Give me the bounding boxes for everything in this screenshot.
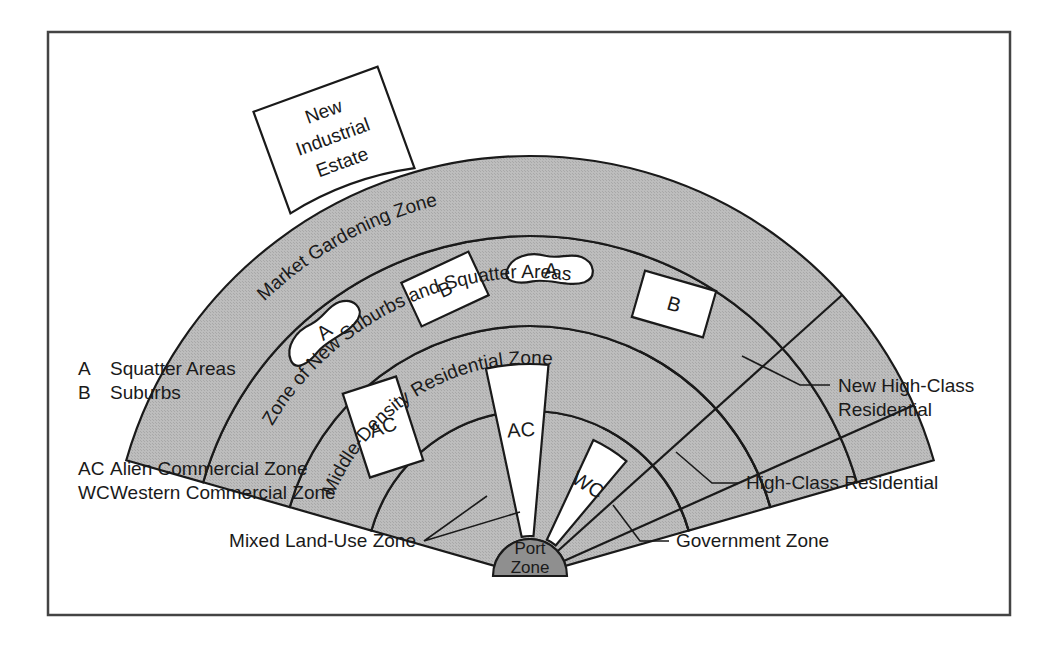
legend-text: Western Commercial Zone xyxy=(110,482,336,503)
callout-label-line: Government Zone xyxy=(676,530,829,551)
diagram-canvas: BBAAACACWC NewIndustrialEstate Market Ga… xyxy=(0,0,1060,653)
legend-code: AC xyxy=(78,458,104,479)
legend-item-b: BSuburbs xyxy=(78,382,181,403)
callout-label-line: High-Class Residential xyxy=(746,472,938,493)
legend-code: B xyxy=(78,382,91,403)
legend-item-ac: ACAlien Commercial Zone xyxy=(78,458,307,479)
area-code-label: AC xyxy=(507,418,536,442)
callout-label-line: Residential xyxy=(838,399,932,420)
legend-code: WC xyxy=(78,482,110,503)
legend-text: Squatter Areas xyxy=(110,358,236,379)
port-zone-label-line: Port xyxy=(514,539,545,558)
land-use-diagram-svg: BBAAACACWC NewIndustrialEstate Market Ga… xyxy=(0,0,1060,653)
legend-text: Suburbs xyxy=(110,382,181,403)
port-zone-label-line: Zone xyxy=(511,558,550,577)
callout-label-line: Mixed Land-Use Zone xyxy=(229,530,416,551)
callout-label-line: New High-Class xyxy=(838,375,974,396)
legend-item-wc: WCWestern Commercial Zone xyxy=(78,482,336,503)
legend-item-a: ASquatter Areas xyxy=(78,358,236,379)
legend-code: A xyxy=(78,358,91,379)
legend-text: Alien Commercial Zone xyxy=(110,458,307,479)
